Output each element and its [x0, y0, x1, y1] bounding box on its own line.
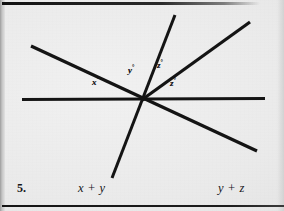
angle-label-z-upper-degree: ° [161, 59, 163, 65]
answer-choice-left[interactable]: x + y [78, 181, 105, 196]
answer-choice-right[interactable]: y + z [218, 181, 245, 196]
caption-row: 5. x + y y + z [0, 181, 284, 203]
steep-line [112, 15, 175, 178]
angle-label-x-degree: ° [97, 76, 99, 82]
problem-number: 5. [17, 181, 26, 196]
scanned-page: x° y° z° z° 5. x + y y + z [0, 0, 284, 211]
intersecting-lines-angle-diagram [0, 0, 284, 211]
angle-label-y-degree: ° [132, 64, 134, 70]
angle-label-z-lower-degree: ° [174, 77, 176, 83]
angle-label-y: y° [128, 66, 134, 75]
vertex-point [141, 97, 145, 101]
angle-label-z-lower: z° [170, 79, 176, 88]
angle-label-x: x° [92, 78, 99, 87]
angle-label-z-upper: z° [157, 61, 163, 70]
